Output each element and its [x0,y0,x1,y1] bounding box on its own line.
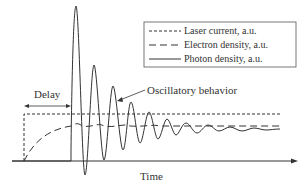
electron-density-curve [24,124,280,161]
oscillatory-arrow [120,90,145,100]
delay-arrowhead-right [66,104,71,108]
relaxation-oscillation-diagram: Delay Oscillatory behavior Time Laser cu… [0,0,299,184]
legend-laser-label: Laser current, a.u. [184,25,256,36]
delay-label: Delay [34,88,61,100]
legend-photon-label: Photon density, a.u. [184,53,263,64]
time-axis-arrowhead [291,159,298,164]
oscillatory-arrowhead [117,97,123,102]
legend-electron-label: Electron density, a.u. [184,39,268,50]
oscillatory-label: Oscillatory behavior [147,84,237,96]
time-label: Time [140,170,163,182]
delay-arrowhead-left [24,104,29,108]
